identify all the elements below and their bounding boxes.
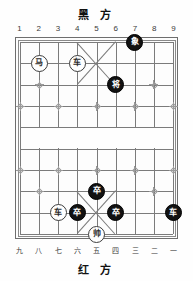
red-horse[interactable]: 马 [31, 55, 48, 72]
black-elephant[interactable]: 象 [126, 34, 143, 51]
position-marker-12 [169, 166, 178, 175]
red-marshal[interactable]: 帅 [88, 226, 105, 243]
file-label-bottom-5: 五 [91, 245, 102, 255]
file-label-top-7: 7 [130, 24, 141, 33]
position-marker-1 [35, 80, 44, 89]
piece-glyph: 马 [35, 59, 43, 67]
file-label-top-2: 2 [33, 24, 44, 33]
grid-hline-5 [20, 149, 173, 150]
position-marker-8 [16, 166, 25, 175]
file-label-top-6: 6 [110, 24, 121, 33]
position-marker-6 [130, 102, 139, 111]
position-marker-diamond [132, 167, 139, 174]
piece-glyph: 卒 [93, 187, 101, 195]
position-marker-diamond [36, 82, 43, 89]
position-marker-5 [92, 102, 101, 111]
position-marker-7 [169, 102, 178, 111]
position-marker-3 [16, 102, 25, 111]
position-marker-10 [92, 166, 101, 175]
position-marker-13 [35, 187, 44, 196]
red-side-title: 红 方 [0, 261, 193, 277]
position-marker-2 [149, 80, 158, 89]
position-marker-diamond [17, 167, 24, 174]
file-label-top-5: 5 [91, 24, 102, 33]
red-chariot-top[interactable]: 车 [69, 55, 86, 72]
file-label-bottom-9: 一 [168, 245, 179, 255]
red-chariot-bottom[interactable]: 车 [50, 204, 67, 221]
piece-glyph: 卒 [112, 208, 120, 216]
position-marker-4 [54, 102, 63, 111]
grid-hline-0 [20, 42, 173, 43]
position-marker-diamond [170, 167, 177, 174]
position-marker-14 [149, 187, 158, 196]
position-marker-11 [130, 166, 139, 175]
position-marker-9 [54, 166, 63, 175]
file-label-bottom-6: 四 [110, 245, 121, 255]
file-label-top-1: 1 [14, 24, 25, 33]
piece-glyph: 将 [112, 80, 120, 88]
black-side-title: 黑 方 [0, 6, 193, 22]
file-label-top-9: 9 [168, 24, 179, 33]
position-marker-diamond [151, 82, 158, 89]
black-pawn-right[interactable]: 卒 [107, 204, 124, 221]
position-marker-diamond [36, 188, 43, 195]
piece-glyph: 帅 [93, 230, 101, 238]
black-chariot[interactable]: 车 [165, 204, 182, 221]
file-label-bottom-7: 三 [130, 245, 141, 255]
position-marker-diamond [93, 103, 100, 110]
position-marker-diamond [151, 188, 158, 195]
file-label-top-8: 8 [149, 24, 160, 33]
position-marker-diamond [17, 103, 24, 110]
file-label-bottom-8: 二 [149, 245, 160, 255]
black-pawn-left[interactable]: 卒 [69, 204, 86, 221]
river-band [21, 128, 172, 147]
black-pawn-center-upper[interactable]: 卒 [88, 183, 105, 200]
file-label-bottom-1: 九 [14, 245, 25, 255]
position-marker-diamond [55, 103, 62, 110]
position-marker-diamond [170, 103, 177, 110]
piece-glyph: 车 [54, 208, 62, 216]
piece-glyph: 车 [73, 59, 81, 67]
piece-glyph: 卒 [73, 208, 81, 216]
board-grid: 象马车将卒车卒卒车帅 [20, 42, 173, 234]
position-marker-diamond [93, 167, 100, 174]
black-general[interactable]: 将 [107, 76, 124, 93]
piece-glyph: 象 [131, 38, 139, 46]
file-label-bottom-2: 八 [33, 245, 44, 255]
file-label-bottom-4: 六 [72, 245, 83, 255]
file-label-bottom-3: 七 [53, 245, 64, 255]
xiangqi-diagram: 黑 方 123456789 象马车将卒车卒卒车帅 九八七六五四三二一 红 方 [0, 0, 193, 281]
position-marker-diamond [132, 103, 139, 110]
file-labels-top: 123456789 [14, 24, 179, 33]
xiangqi-board[interactable]: 象马车将卒车卒卒车帅 [15, 37, 178, 239]
position-marker-diamond [55, 167, 62, 174]
file-labels-bottom: 九八七六五四三二一 [14, 245, 179, 255]
file-label-top-4: 4 [72, 24, 83, 33]
piece-glyph: 车 [169, 208, 177, 216]
file-label-top-3: 3 [53, 24, 64, 33]
